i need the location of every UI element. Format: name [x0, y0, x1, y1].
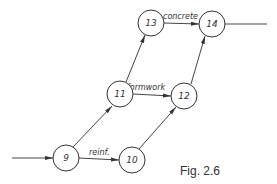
edge-12-14	[191, 36, 205, 84]
svg-text:13: 13	[145, 18, 157, 28]
edge-10-12	[139, 107, 176, 149]
edge-9-11	[73, 106, 112, 147]
edge-9-10	[79, 158, 119, 160]
network-diagram: reinf. formwork concrete 9 10 11 12 13 1…	[0, 0, 277, 184]
edge-11-12	[133, 94, 171, 96]
svg-text:11: 11	[114, 89, 125, 99]
node-10: 10	[119, 147, 145, 173]
svg-text:12: 12	[178, 91, 190, 101]
node-11: 11	[107, 81, 133, 107]
node-12: 12	[171, 83, 197, 109]
label-concrete: concrete	[163, 12, 198, 21]
label-reinf: reinf.	[89, 148, 110, 157]
node-9: 9	[53, 145, 79, 171]
edge-13-14	[164, 23, 199, 24]
svg-text:10: 10	[126, 155, 138, 165]
edge-11-13	[126, 35, 145, 82]
figure-caption: Fig. 2.6	[180, 164, 220, 178]
node-13: 13	[138, 10, 164, 36]
svg-text:9: 9	[63, 153, 69, 163]
svg-text:14: 14	[206, 19, 218, 29]
node-14: 14	[199, 11, 225, 37]
